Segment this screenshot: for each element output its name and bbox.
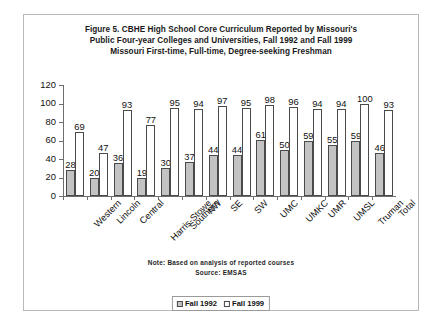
bar[interactable]: 44 [233,155,242,196]
y-axis-tick-label: 100 [40,97,56,108]
bar-value-label: 93 [383,99,393,110]
y-axis-tick-label: 60 [46,134,56,145]
bar-value-label: 93 [122,99,132,110]
y-axis-tick: 60 [25,141,63,142]
footnote: Note: Based on analysis of reported cour… [24,258,418,277]
x-axis-category-label: Central [138,198,166,226]
legend-label: Fall 1992 [185,299,217,308]
x-axis-category-label: SW [253,198,271,216]
y-axis-tick-label: 0 [51,190,56,201]
bar-group: 6198 [253,85,277,196]
bar[interactable]: 93 [384,110,393,196]
y-axis-tick-label: 120 [40,79,56,90]
bar[interactable]: 59 [351,141,360,196]
plot-area: 020406080100120 286920473693197730953794… [63,85,396,197]
footnote-source: Source: EMSAS [24,268,418,278]
bar-value-label: 95 [241,97,251,108]
bar[interactable]: 30 [161,168,170,196]
bar[interactable]: 59 [304,141,313,196]
bar-group: 4497 [206,85,230,196]
bar[interactable]: 94 [313,109,322,196]
bar-group: 1977 [134,85,158,196]
chart-title-line-1: Figure 5. CBHE High School Core Curricul… [24,24,418,35]
y-axis-tick: 40 [25,159,63,160]
bar-group: 3095 [158,85,182,196]
x-axis-category-label: UMC [278,198,300,220]
bar-group: 4693 [372,85,396,196]
bar[interactable]: 100 [360,104,369,197]
bar-group: 3794 [182,85,206,196]
bar-value-label: 47 [98,142,108,153]
legend-label: Fall 1999 [232,299,264,308]
y-axis-tick-label: 20 [46,171,56,182]
bar-value-label: 77 [146,114,156,125]
chart-legend: Fall 1992Fall 1999 [172,296,270,311]
bar-group: 4495 [230,85,254,196]
chart-title: Figure 5. CBHE High School Core Curricul… [24,24,418,58]
bar[interactable]: 98 [265,105,274,196]
bar[interactable]: 96 [289,107,298,196]
bar[interactable]: 50 [280,150,289,196]
y-axis-tick-label: 40 [46,153,56,164]
bar[interactable]: 97 [218,106,227,196]
bar-group: 2869 [63,85,87,196]
chart-title-line-2: Public Four-year Colleges and Universiti… [24,35,418,46]
bar[interactable]: 61 [256,140,265,196]
x-axis-category-label: SE [228,198,244,214]
bar-value-label: 97 [217,95,227,106]
figure-frame: Figure 5. CBHE High School Core Curricul… [23,14,419,311]
bar-group: 59100 [348,85,372,196]
bar[interactable]: 94 [337,109,346,196]
bar[interactable]: 94 [194,109,203,196]
bar-value-label: 98 [265,94,275,105]
legend-entry[interactable]: Fall 1999 [224,299,264,308]
bar[interactable]: 44 [209,155,218,196]
bar[interactable]: 36 [114,163,123,196]
bar-value-label: 100 [357,93,373,104]
x-axis-category-labels: WesternLincolnCentralHarris-StoweSouther… [63,198,396,258]
bar-value-label: 95 [169,97,179,108]
legend-swatch-icon [224,301,230,307]
bar-value-label: 94 [193,98,203,109]
bar-value-label: 69 [74,121,84,132]
chart-title-line-3: Missouri First-time, Full-time, Degree-s… [24,46,418,57]
bar-group: 5594 [325,85,349,196]
bar-value-label: 96 [288,96,298,107]
bar[interactable]: 37 [185,162,194,196]
bar[interactable]: 69 [75,132,84,196]
bar[interactable]: 95 [170,108,179,196]
y-axis-tick-label: 80 [46,116,56,127]
bar-group: 5096 [277,85,301,196]
y-axis-tick: 120 [25,85,63,86]
footnote-note: Note: Based on analysis of reported cour… [24,258,418,268]
bar-group: 5994 [301,85,325,196]
bar[interactable]: 46 [375,153,384,196]
legend-swatch-icon [177,301,183,307]
bar[interactable]: 77 [146,125,155,196]
bar[interactable]: 55 [328,145,337,196]
bar-value-label: 94 [312,98,322,109]
y-axis-tick: 20 [25,178,63,179]
x-axis-category-label: UMSL [351,198,376,223]
bar[interactable]: 93 [123,110,132,196]
bar[interactable]: 47 [99,153,108,196]
x-axis-category-label: UMR [326,198,348,220]
y-axis-tick: 100 [25,104,63,105]
bar-group: 2047 [87,85,111,196]
bar[interactable]: 19 [137,178,146,196]
legend-entry[interactable]: Fall 1992 [177,299,217,308]
y-axis-tick: 0 [25,196,63,197]
bar[interactable]: 95 [242,108,251,196]
y-axis-tick: 80 [25,122,63,123]
bar-group: 3693 [111,85,135,196]
bar-value-label: 94 [336,98,346,109]
bar[interactable]: 28 [66,170,75,196]
bar[interactable]: 20 [90,178,99,197]
